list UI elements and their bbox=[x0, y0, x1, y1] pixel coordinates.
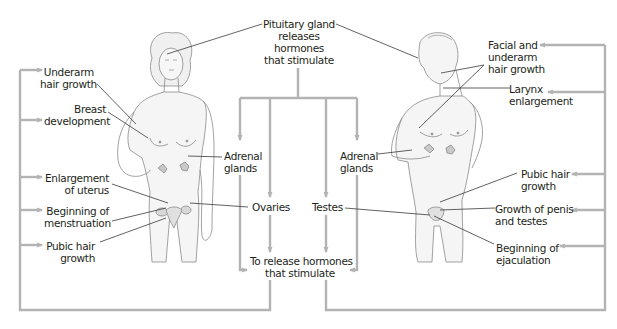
female-pubic-label: Pubic hair growth bbox=[44, 240, 95, 264]
male-ejaculation-line-2: ejaculation bbox=[496, 254, 559, 266]
pituitary-line-2: releases bbox=[263, 30, 335, 42]
female-menstruation-line-1: Beginning of bbox=[44, 205, 109, 217]
female-breast-line-2: development bbox=[44, 115, 106, 127]
adrenal-left-line-2: glands bbox=[224, 162, 262, 174]
female-breast-line-1: Breast bbox=[44, 103, 106, 115]
female-figure bbox=[118, 32, 214, 262]
male-facial-line-3: hair growth bbox=[488, 63, 545, 75]
male-pubic-label: Pubic hair growth bbox=[521, 168, 570, 192]
pituitary-line-4: that stimulate bbox=[263, 54, 335, 66]
release-line-1: To release hormones bbox=[250, 255, 350, 267]
male-larynx-line-1: Larynx bbox=[509, 83, 573, 95]
male-pubic-line-1: Pubic hair bbox=[521, 168, 570, 180]
male-larynx-line-2: enlargement bbox=[509, 95, 573, 107]
puberty-hormone-diagram: Pituitary gland releases hormones that s… bbox=[0, 0, 617, 329]
testes-label: Testes bbox=[312, 201, 343, 213]
male-facial-line-2: underarm bbox=[488, 51, 545, 63]
release-line-2: that stimulate bbox=[250, 267, 350, 279]
ovaries-label: Ovaries bbox=[252, 201, 290, 213]
female-pubic-line-1: Pubic hair bbox=[44, 240, 95, 252]
adrenal-right-label: Adrenal glands bbox=[340, 150, 378, 174]
female-uterus-line-1: Enlargement bbox=[44, 172, 109, 184]
male-ejaculation-line-1: Beginning of bbox=[496, 242, 559, 254]
male-larynx-label: Larynx enlargement bbox=[509, 83, 573, 107]
female-menstruation-label: Beginning of menstruation bbox=[44, 205, 109, 229]
female-menstruation-line-2: menstruation bbox=[44, 217, 109, 229]
adrenal-left-label: Adrenal glands bbox=[224, 150, 262, 174]
female-underarm-line-2: hair growth bbox=[40, 78, 94, 90]
release-label: To release hormones that stimulate bbox=[250, 255, 350, 279]
male-penis-line-1: Growth of penis bbox=[495, 203, 573, 215]
female-underarm-line-1: Underarm bbox=[40, 66, 94, 78]
female-uterus-label: Enlargement of uterus bbox=[44, 172, 109, 196]
male-figure bbox=[391, 33, 482, 262]
male-facial-line-1: Facial and bbox=[488, 39, 545, 51]
male-pubic-line-2: growth bbox=[521, 180, 570, 192]
female-uterus-line-2: of uterus bbox=[44, 184, 109, 196]
adrenal-right-line-1: Adrenal bbox=[340, 150, 378, 162]
male-penis-line-2: and testes bbox=[495, 215, 573, 227]
male-facial-label: Facial and underarm hair growth bbox=[488, 39, 545, 75]
male-penis-label: Growth of penis and testes bbox=[495, 203, 573, 227]
female-underarm-label: Underarm hair growth bbox=[40, 66, 94, 90]
pituitary-line-1: Pituitary gland bbox=[263, 18, 335, 30]
male-ejaculation-label: Beginning of ejaculation bbox=[496, 242, 559, 266]
pituitary-label: Pituitary gland releases hormones that s… bbox=[263, 18, 335, 66]
adrenal-right-line-2: glands bbox=[340, 162, 378, 174]
female-pubic-line-2: growth bbox=[44, 252, 95, 264]
adrenal-left-line-1: Adrenal bbox=[224, 150, 262, 162]
female-breast-label: Breast development bbox=[44, 103, 106, 127]
pituitary-line-3: hormones bbox=[263, 42, 335, 54]
